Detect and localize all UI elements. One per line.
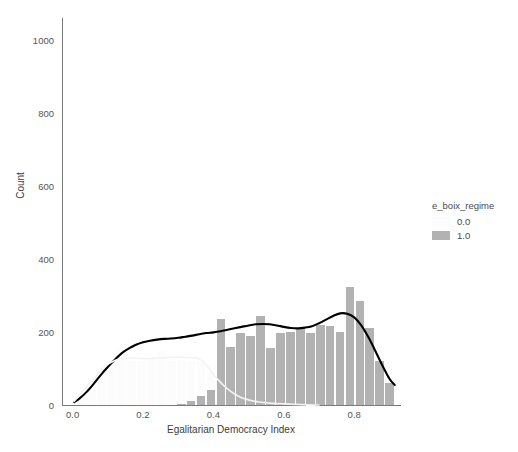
chart-root: 02004006008001000 0.00.20.40.60.8 Egalit… [0,0,518,452]
x-tick-label: 0.2 [136,409,149,420]
y-tick-label: 400 [8,253,54,264]
x-tick-label: 0.4 [207,409,220,420]
legend-label: 1.0 [457,230,470,241]
y-tick-label: 200 [8,326,54,337]
legend-title: e_boix_regime [432,200,494,211]
x-axis-label: Egalitarian Democracy Index [62,424,400,435]
y-axis-label: Count [15,146,26,226]
x-tick-label: 0.6 [277,409,290,420]
legend: e_boix_regime 0.01.0 [432,200,494,243]
y-tick-label: 800 [8,107,54,118]
legend-entries: 0.01.0 [432,215,494,242]
kde-curves [62,18,400,405]
y-tick-label: 1000 [8,34,54,45]
legend-item[interactable]: 1.0 [432,229,494,242]
x-tick-label: 0.0 [66,409,79,420]
x-axis-line [62,405,401,406]
legend-item[interactable]: 0.0 [432,215,494,228]
legend-label: 0.0 [457,216,470,227]
y-axis-ticks: 02004006008001000 [0,0,54,452]
x-tick-label: 0.8 [348,409,361,420]
legend-swatch [432,217,450,226]
plot-area [62,18,400,405]
y-tick-label: 0 [8,400,54,411]
legend-swatch [432,231,450,240]
kde-curve [74,313,394,402]
